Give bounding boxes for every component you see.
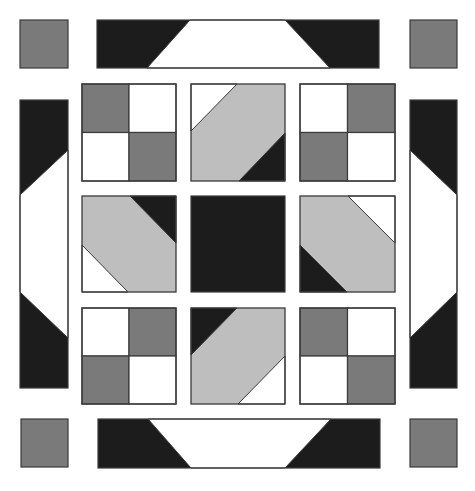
- square-patch: [20, 20, 68, 68]
- four-patch-square: [82, 356, 129, 404]
- diagonal-block-bottom-center: [191, 308, 285, 404]
- four-patch-square: [129, 356, 176, 404]
- solid-patch: [191, 196, 285, 292]
- diagonal-block-top-center: [191, 84, 285, 181]
- corner-square-top-left: [20, 20, 68, 68]
- corner-square-bottom-right: [410, 419, 457, 467]
- corner-square-bottom-left: [21, 419, 68, 467]
- four-patch-square: [129, 133, 176, 182]
- four-patch-bottom-right: [300, 308, 395, 404]
- four-patch-square: [348, 133, 396, 182]
- four-patch-square: [82, 84, 129, 133]
- border-strip-bottom: [98, 419, 380, 468]
- diagonal-block-middle-right: [300, 196, 395, 292]
- corner-square-top-right: [410, 20, 457, 68]
- four-patch-top-right: [300, 84, 395, 181]
- four-patch-square: [129, 308, 176, 356]
- four-patch-square: [129, 84, 176, 133]
- four-patch-square: [348, 308, 396, 356]
- square-patch: [21, 419, 68, 467]
- border-strip-right: [410, 100, 457, 388]
- diagonal-block-middle-left: [82, 196, 176, 292]
- four-patch-square: [82, 133, 129, 182]
- four-patch-square: [300, 84, 348, 133]
- four-patch-square: [300, 356, 348, 404]
- border-strip-left: [20, 100, 68, 388]
- border-strip-top: [97, 20, 379, 68]
- square-patch: [410, 419, 457, 467]
- four-patch-square: [300, 308, 348, 356]
- four-patch-square: [82, 308, 129, 356]
- four-patch-bottom-left: [82, 308, 176, 404]
- four-patch-square: [348, 84, 396, 133]
- four-patch-square: [300, 133, 348, 182]
- square-patch: [410, 20, 457, 68]
- center-square: [191, 196, 285, 292]
- four-patch-top-left: [82, 84, 176, 181]
- quilt-diagram: [0, 0, 475, 491]
- four-patch-square: [348, 356, 396, 404]
